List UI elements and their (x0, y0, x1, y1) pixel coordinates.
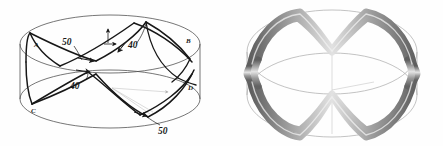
angle-label-top-right: 40 (127, 40, 138, 50)
winding-lower-c1 (26, 33, 30, 62)
right-turnaround-inner (408, 60, 412, 86)
angle-label-bottom-left: 40 (69, 81, 80, 91)
angle-label-top-left: 50 (62, 37, 72, 47)
winding-upper-a2 (96, 22, 146, 61)
left-turnaround (247, 66, 250, 80)
vertex-label-right-upper: B (185, 37, 191, 45)
angle-label-bottom-right: 50 (158, 126, 168, 136)
winding-lower-b3 (148, 70, 194, 117)
vertex-label-left-lower: C (31, 107, 36, 115)
lower-winding-paths (26, 33, 194, 117)
radius-dimension-line (112, 88, 168, 92)
vertex-label-right-lower: D (187, 84, 193, 92)
schematic-canvas: 50 40 40 50 A B C D (0, 0, 222, 146)
chord-right-cross (172, 59, 190, 82)
winding-upper-b3 (134, 23, 192, 62)
vertex-label-left-upper: A (33, 41, 39, 49)
render-canvas (222, 0, 443, 146)
three-dimensional-winding-render (222, 0, 443, 146)
winding-lower-b2 (96, 74, 148, 117)
leader-lines (74, 24, 160, 125)
leader-angle-bottom-right (147, 117, 160, 125)
winding-lower-a1 (26, 62, 32, 104)
axis-radius (332, 82, 374, 90)
figure-root: 50 40 40 50 A B C D (0, 0, 443, 146)
left-turnaround-inner (254, 60, 258, 86)
winding-lower-a2 (32, 72, 88, 104)
winding-upper-b1 (30, 33, 60, 66)
construction-line-lower-2 (112, 88, 150, 114)
hand-drawn-winding-schematic: 50 40 40 50 A B C D (0, 0, 222, 146)
